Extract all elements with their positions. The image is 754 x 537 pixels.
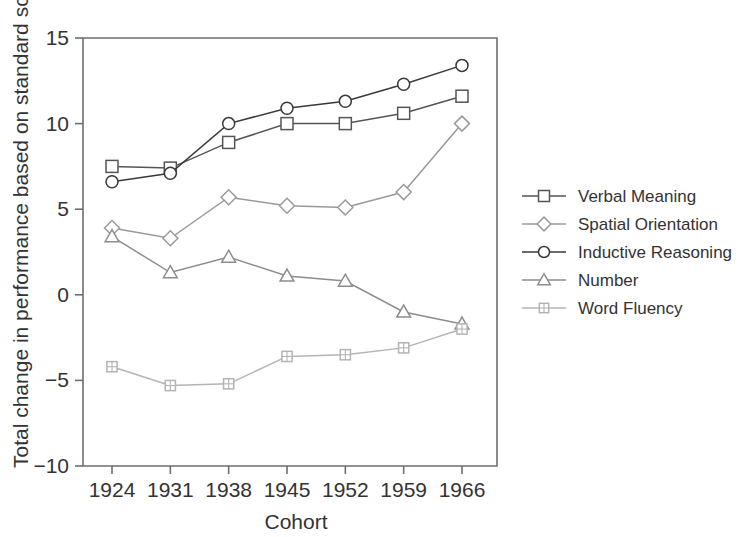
marker-grid-square <box>107 362 117 372</box>
data-series <box>105 59 470 390</box>
marker-diamond <box>338 200 353 215</box>
series-spatial-orientation <box>105 116 470 246</box>
y-tick-label: 5 <box>57 197 69 220</box>
legend-item-verbal-meaning[interactable]: Verbal Meaning <box>522 187 696 206</box>
legend-item-inductive-reasoning[interactable]: Inductive Reasoning <box>522 243 732 262</box>
x-tick-label: 1924 <box>89 478 136 501</box>
marker-triangle <box>538 274 551 285</box>
x-axis-ticks: 1924193119381945195219591966 <box>89 466 486 501</box>
marker-circle <box>106 176 118 188</box>
marker-square <box>456 90 468 102</box>
marker-circle <box>164 167 176 179</box>
marker-diamond <box>163 231 178 246</box>
y-tick-label: −10 <box>33 454 69 477</box>
marker-square <box>106 160 118 172</box>
marker-diamond <box>221 190 236 205</box>
line-chart: Total change in performance based on sta… <box>0 0 754 537</box>
y-tick-label: −5 <box>45 368 69 391</box>
marker-circle <box>398 78 410 90</box>
marker-circle <box>281 102 293 114</box>
marker-grid-square <box>165 380 175 390</box>
marker-circle <box>223 118 235 130</box>
legend-label: Verbal Meaning <box>578 187 696 206</box>
series-word-fluency <box>107 324 467 391</box>
x-tick-label: 1938 <box>205 478 252 501</box>
chart-legend: Verbal MeaningSpatial OrientationInducti… <box>522 187 732 318</box>
marker-circle <box>539 247 550 258</box>
marker-square <box>281 118 293 130</box>
x-tick-label: 1959 <box>380 478 427 501</box>
x-axis-title-text: Cohort <box>264 510 327 533</box>
marker-triangle <box>397 305 411 317</box>
x-tick-label: 1952 <box>322 478 369 501</box>
marker-circle <box>456 59 468 71</box>
marker-circle <box>339 95 351 107</box>
marker-square <box>223 136 235 148</box>
series-line <box>112 124 462 239</box>
marker-grid-square <box>224 379 234 389</box>
chart-figure: Total change in performance based on sta… <box>0 0 754 537</box>
y-tick-label: 0 <box>57 283 69 306</box>
x-tick-label: 1966 <box>439 478 486 501</box>
legend-label: Word Fluency <box>578 299 683 318</box>
marker-square <box>539 191 550 202</box>
marker-grid-square <box>282 351 292 361</box>
marker-grid-square <box>539 303 548 312</box>
marker-diamond <box>537 217 551 231</box>
legend-item-word-fluency[interactable]: Word Fluency <box>522 299 683 318</box>
y-axis-title-text: Total change in performance based on sta… <box>9 0 32 468</box>
marker-grid-square <box>457 324 467 334</box>
marker-square <box>339 118 351 130</box>
legend-label: Spatial Orientation <box>578 215 718 234</box>
legend-label: Inductive Reasoning <box>578 243 732 262</box>
y-axis-title: Total change in performance based on sta… <box>9 0 32 468</box>
x-tick-label: 1945 <box>264 478 311 501</box>
y-tick-label: 15 <box>46 26 69 49</box>
legend-item-number[interactable]: Number <box>522 271 639 290</box>
legend-item-spatial-orientation[interactable]: Spatial Orientation <box>522 215 718 234</box>
marker-grid-square <box>340 350 350 360</box>
marker-grid-square <box>399 343 409 353</box>
marker-square <box>398 107 410 119</box>
y-axis-ticks: 151050−5−10 <box>33 26 83 477</box>
x-tick-label: 1931 <box>147 478 194 501</box>
y-tick-label: 10 <box>46 112 69 135</box>
marker-diamond <box>280 198 295 213</box>
marker-triangle <box>222 250 236 262</box>
legend-label: Number <box>578 271 639 290</box>
series-number <box>105 230 469 329</box>
